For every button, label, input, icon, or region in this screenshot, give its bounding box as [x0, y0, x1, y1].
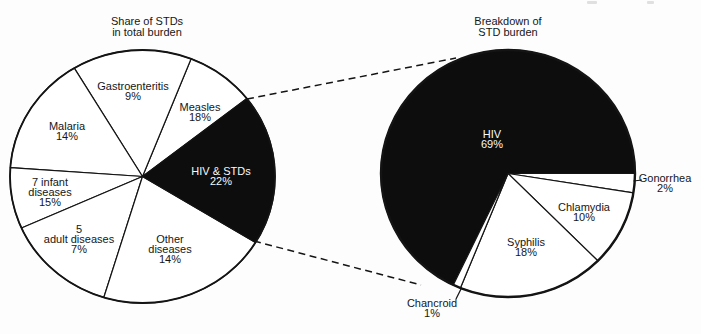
label-chancroid: Chancroid 1% [407, 298, 457, 318]
slice-pct: 69% [481, 139, 503, 149]
slice-name: 5 adult diseases [44, 224, 114, 244]
slice-pct: 14% [49, 131, 85, 141]
label-syphilis: Syphilis 18% [507, 237, 545, 257]
scan-artifact [587, 1, 597, 4]
slice-pct: 7% [44, 244, 114, 254]
right-pie [381, 50, 635, 297]
pie-figure-canvas [0, 0, 701, 334]
label-hiv-stds: HIV & STDs 22% [191, 166, 250, 186]
slice-name: Other diseases [148, 234, 191, 254]
label-gastroenteritis: Gastroenteritis 9% [97, 81, 169, 101]
slice-pct: 15% [28, 197, 71, 207]
label-malaria: Malaria 14% [49, 121, 85, 141]
slice-pct: 1% [407, 308, 457, 318]
slice-pct: 2% [639, 183, 692, 193]
slice-pct: 14% [148, 254, 191, 264]
slice-pct: 10% [558, 212, 610, 222]
label-other-diseases: Other diseases 14% [148, 234, 191, 264]
label-infant-diseases: 7 infant diseases 15% [28, 177, 71, 207]
slice-pct: 22% [191, 176, 250, 186]
scan-artifact [647, 1, 654, 4]
right-pie-title: Breakdown of STD burden [474, 16, 541, 37]
slice-pct: 18% [180, 112, 221, 122]
left-pie-title: Share of STDs in total burden [111, 16, 183, 37]
label-measles: Measles 18% [180, 102, 221, 122]
connector-bottom-dashed-line [254, 241, 421, 285]
label-gonorrhea: Gonorrhea 2% [639, 173, 692, 193]
figure: Share of STDs in total burden Breakdown … [0, 0, 701, 334]
label-chlamydia: Chlamydia 10% [558, 202, 610, 222]
label-adult-diseases: 5 adult diseases 7% [44, 224, 114, 254]
slice-pct: 9% [97, 91, 169, 101]
slice-name: 7 infant diseases [28, 177, 71, 197]
label-hiv: HIV 69% [481, 129, 503, 149]
slice-pct: 18% [507, 247, 545, 257]
